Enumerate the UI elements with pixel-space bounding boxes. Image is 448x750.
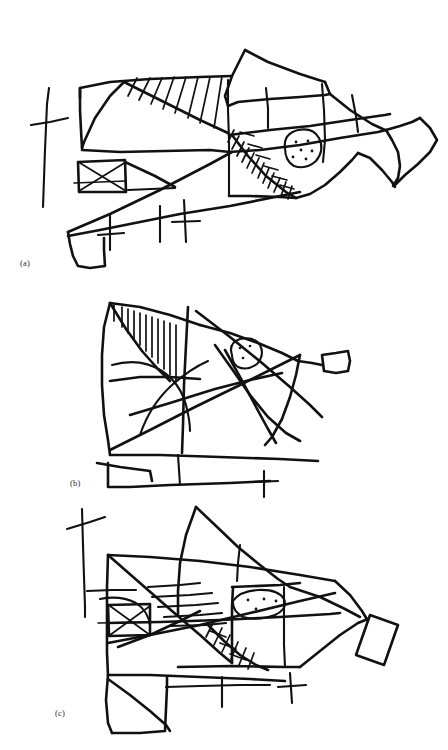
figure-caption-a: (a) bbox=[20, 258, 30, 268]
sketch-a bbox=[0, 0, 448, 290]
figure-panel-a bbox=[0, 0, 448, 290]
figure-page: (a) bbox=[0, 0, 448, 750]
figure-panel-b bbox=[0, 285, 448, 500]
figure-panel-c bbox=[0, 495, 448, 750]
sketch-c bbox=[0, 495, 448, 750]
figure-caption-b: (b) bbox=[70, 478, 81, 488]
figure-caption-c: (c) bbox=[55, 708, 65, 718]
sketch-b bbox=[0, 285, 448, 500]
